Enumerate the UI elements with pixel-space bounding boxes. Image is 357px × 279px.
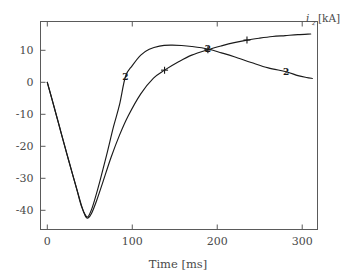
plot-frame: [41, 22, 318, 230]
x-tick-label: 200: [207, 235, 228, 248]
x-axis-tick-labels: 0100200300: [44, 235, 313, 248]
x-tick-label: 300: [292, 235, 313, 248]
x-tick-label: 0: [44, 235, 51, 248]
curve-series-1: [47, 34, 310, 218]
y-axis-label-unit: [kA]: [318, 12, 340, 24]
y-axis-label-subscript: z: [311, 19, 316, 27]
y-tick-label: -10: [16, 108, 34, 121]
y-tick-label: -20: [16, 140, 34, 153]
line-chart: 0100200300 100-10-20-30-40 222 i z [kA] …: [0, 0, 357, 279]
marker-plus-1: [243, 37, 250, 44]
marker-plus-1: [161, 67, 168, 74]
x-axis-title: Time [ms]: [149, 257, 208, 271]
y-axis-label-symbol: i: [306, 12, 309, 24]
y-axis-tick-labels: 100-10-20-30-40: [16, 44, 34, 217]
chart-figure: 0100200300 100-10-20-30-40 222 i z [kA] …: [0, 0, 357, 279]
x-tick-label: 100: [122, 235, 143, 248]
y-tick-label: -40: [16, 204, 34, 217]
y-tick-label: 10: [20, 44, 34, 57]
marker-label-2: 2: [205, 44, 211, 54]
marker-label-2: 2: [122, 72, 128, 82]
marker-label-2: 2: [283, 67, 289, 77]
data-curves: [47, 34, 312, 218]
y-tick-label: 0: [27, 76, 34, 89]
series-markers: 222: [122, 37, 289, 82]
curve-series-2: [47, 45, 312, 217]
y-tick-label: -30: [16, 172, 34, 185]
